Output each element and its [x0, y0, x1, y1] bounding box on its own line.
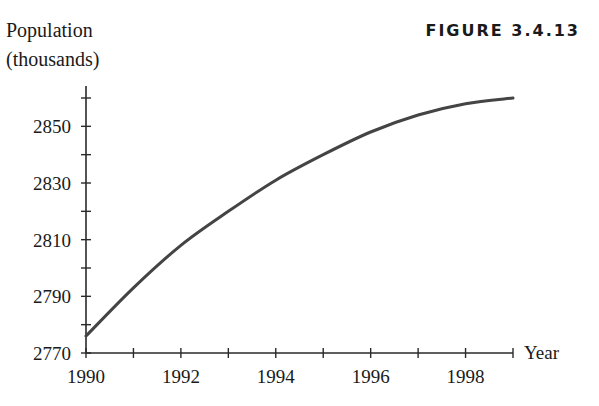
- x-tick-label: 1998: [447, 366, 485, 387]
- x-axis-title: Year: [524, 342, 560, 363]
- y-axis-title-line2: (thousands): [6, 48, 99, 71]
- population-chart: FIGURE 3.4.13 Population (thousands) 277…: [0, 0, 599, 406]
- x-tick-label: 1992: [162, 366, 200, 387]
- y-tick-label: 2770: [33, 343, 71, 364]
- y-tick-label: 2830: [33, 173, 71, 194]
- figure-label: FIGURE 3.4.13: [425, 21, 580, 40]
- population-curve: [86, 98, 513, 336]
- y-tick-label: 2810: [33, 230, 71, 251]
- y-tick-labels: 27702790281028302850: [33, 116, 71, 364]
- y-tick-label: 2850: [33, 116, 71, 137]
- x-tick-labels: 19901992199419961998: [67, 366, 485, 387]
- x-tick-label: 1990: [67, 366, 105, 387]
- y-tick-label: 2790: [33, 286, 71, 307]
- x-tick-label: 1994: [257, 366, 296, 387]
- y-axis-title-line1: Population: [6, 19, 93, 42]
- x-tick-label: 1996: [352, 366, 390, 387]
- axes: [81, 86, 513, 358]
